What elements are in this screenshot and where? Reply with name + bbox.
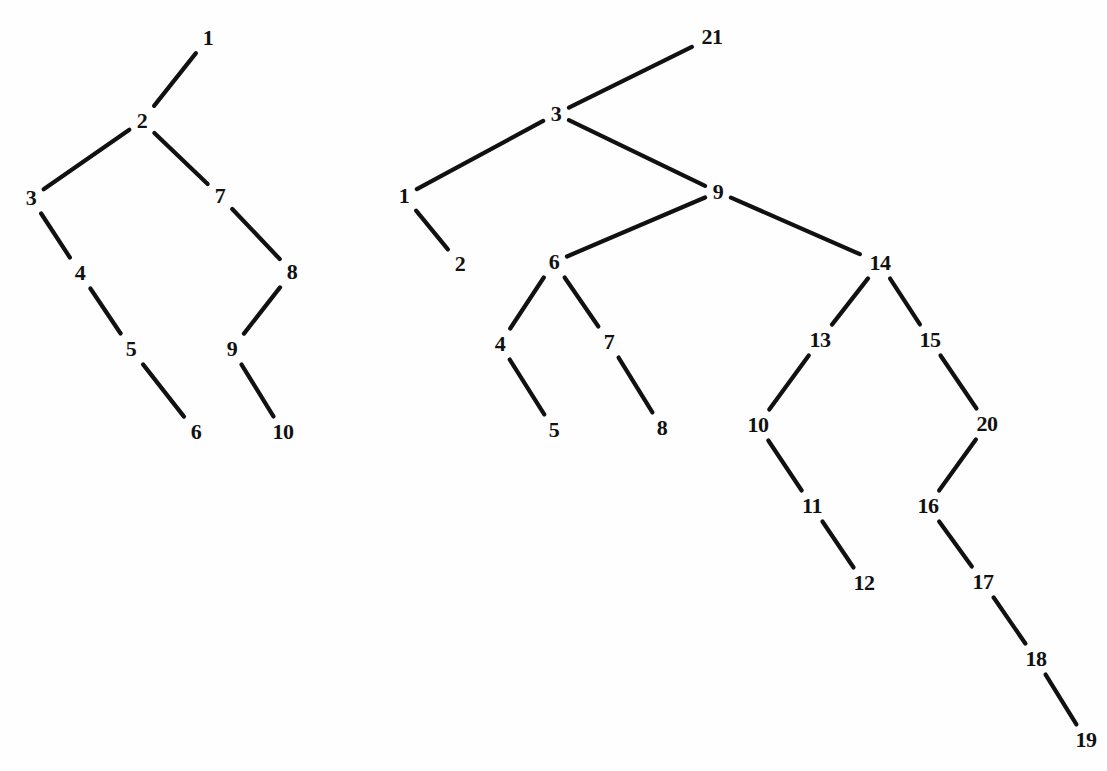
node-label-1: 1 bbox=[399, 185, 410, 207]
tree-edge bbox=[154, 133, 207, 184]
tree-edge bbox=[567, 198, 705, 257]
tree-edge bbox=[569, 120, 705, 186]
node-label-3: 3 bbox=[26, 187, 37, 209]
node-label-4: 4 bbox=[75, 262, 86, 284]
tree-edge bbox=[731, 198, 860, 255]
node-label-7: 7 bbox=[215, 185, 226, 207]
node-label-17: 17 bbox=[973, 571, 994, 593]
tree-edge bbox=[44, 130, 130, 189]
tree-edge bbox=[90, 288, 120, 333]
tree-edge bbox=[994, 597, 1026, 643]
node-label-2: 2 bbox=[455, 253, 466, 275]
tree-edge bbox=[939, 521, 972, 566]
tree-edge bbox=[768, 441, 801, 491]
node-label-1: 1 bbox=[203, 27, 214, 49]
node-label-9: 9 bbox=[227, 338, 238, 360]
tree-edge bbox=[619, 358, 653, 413]
tree-edge bbox=[416, 211, 448, 250]
node-label-21: 21 bbox=[702, 26, 723, 48]
node-label-8: 8 bbox=[287, 261, 298, 283]
node-label-5: 5 bbox=[126, 338, 137, 360]
tree-edge bbox=[769, 355, 809, 409]
node-label-4: 4 bbox=[495, 333, 506, 355]
node-label-11: 11 bbox=[802, 495, 822, 517]
tree-edge bbox=[154, 53, 196, 106]
node-label-15: 15 bbox=[920, 329, 941, 351]
tree-edge bbox=[41, 214, 70, 258]
node-label-12: 12 bbox=[854, 572, 875, 594]
node-label-10: 10 bbox=[748, 414, 769, 436]
tree-edge bbox=[510, 278, 544, 329]
diagram-canvas: 1234567891021312964578141310111215201617… bbox=[0, 0, 1107, 771]
tree-edge bbox=[510, 360, 544, 415]
node-label-18: 18 bbox=[1026, 648, 1047, 670]
tree-edge bbox=[242, 365, 274, 417]
node-label-20: 20 bbox=[977, 413, 998, 435]
node-label-6: 6 bbox=[549, 251, 560, 273]
tree-edge bbox=[232, 209, 279, 259]
node-label-2: 2 bbox=[137, 110, 148, 132]
node-label-19: 19 bbox=[1076, 729, 1097, 751]
node-label-7: 7 bbox=[604, 331, 615, 353]
tree-edge bbox=[1046, 675, 1077, 725]
tree-edge bbox=[832, 278, 868, 324]
node-label-16: 16 bbox=[918, 495, 939, 517]
node-label-9: 9 bbox=[713, 181, 724, 203]
tree-edge bbox=[939, 439, 976, 490]
tree-edge bbox=[941, 355, 977, 408]
left-tree-edges bbox=[41, 53, 280, 416]
tree-edge bbox=[417, 121, 543, 189]
node-label-3: 3 bbox=[551, 103, 562, 125]
tree-edge bbox=[244, 287, 280, 333]
node-label-10: 10 bbox=[273, 421, 294, 443]
tree-edge bbox=[890, 279, 920, 325]
node-label-13: 13 bbox=[810, 329, 831, 351]
tree-edge bbox=[822, 521, 853, 567]
tree-edge bbox=[569, 47, 692, 108]
node-label-8: 8 bbox=[657, 417, 668, 439]
tree-edge bbox=[143, 364, 184, 416]
tree-edge bbox=[565, 277, 599, 326]
node-label-6: 6 bbox=[191, 421, 202, 443]
node-label-14: 14 bbox=[870, 252, 891, 274]
node-label-5: 5 bbox=[549, 419, 560, 441]
right-tree-edges bbox=[416, 47, 1076, 725]
